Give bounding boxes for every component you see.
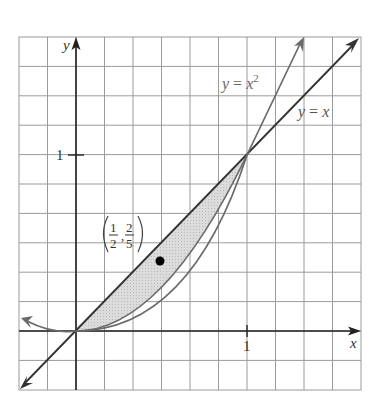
svg-text:2: 2	[126, 220, 133, 235]
x-tick-label: 1	[243, 338, 251, 354]
svg-text:2: 2	[110, 236, 117, 251]
label-y-equals-x-squared: y = x2	[220, 72, 259, 93]
label-y-equals-x: y = x	[296, 103, 329, 121]
centroid-label: 1 2 , 2 5	[104, 216, 143, 252]
x-axis-label: x	[349, 335, 357, 351]
centroid-dot	[156, 257, 165, 266]
y-tick-label: 1	[56, 147, 64, 163]
svg-text:,: ,	[121, 228, 124, 243]
centroid-diagram: y x 1 1 y = x2 y = x 1 2 , 2 5	[0, 0, 375, 404]
svg-text:5: 5	[126, 236, 133, 251]
y-axis-label: y	[61, 37, 70, 53]
svg-text:1: 1	[110, 220, 117, 235]
